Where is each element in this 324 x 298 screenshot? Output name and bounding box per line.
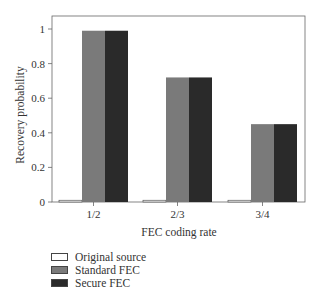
bar: [228, 200, 251, 202]
legend-item-standard-fec: Standard FEC: [51, 263, 146, 276]
x-axis-label: FEC coding rate: [141, 226, 216, 239]
bar-chart: 00.20.40.60.81 1/22/33/4 FEC coding rate…: [0, 0, 324, 245]
x-tick-label: 2/3: [170, 208, 185, 220]
legend-item-secure-fec: Secure FEC: [51, 276, 146, 289]
y-tick-label: 1: [40, 23, 46, 35]
bar: [59, 200, 82, 202]
legend-label: Original source: [75, 251, 146, 263]
y-tick-label: 0: [40, 196, 46, 208]
bar: [166, 77, 189, 202]
y-tick-label: 0.6: [31, 92, 45, 104]
legend-swatch: [51, 266, 68, 274]
bars: [59, 31, 297, 202]
legend: Original source Standard FEC Secure FEC: [51, 250, 146, 289]
bar: [105, 31, 128, 202]
y-tick-label: 0.2: [31, 161, 45, 173]
bar: [82, 31, 105, 202]
legend-swatch: [51, 253, 68, 261]
bar: [189, 77, 212, 202]
y-axis: 00.20.40.60.81: [31, 23, 52, 208]
bar: [251, 124, 274, 202]
y-tick-label: 0.8: [31, 58, 45, 70]
bar: [274, 124, 297, 202]
legend-label: Standard FEC: [75, 264, 140, 276]
legend-swatch: [51, 279, 68, 287]
x-axis: 1/22/33/4: [86, 202, 270, 220]
x-tick-label: 1/2: [86, 208, 100, 220]
y-axis-label: Recovery probability: [14, 66, 27, 164]
y-tick-label: 0.4: [31, 127, 45, 139]
legend-item-original-source: Original source: [51, 250, 146, 263]
x-tick-label: 3/4: [255, 208, 270, 220]
bar: [143, 200, 166, 202]
legend-label: Secure FEC: [75, 277, 130, 289]
